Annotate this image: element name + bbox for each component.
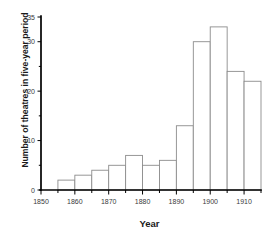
bar	[58, 180, 75, 190]
y-tick-label: 0	[31, 187, 35, 194]
y-tick-label: 20	[27, 88, 35, 95]
bar	[109, 165, 126, 190]
bar	[210, 27, 227, 190]
y-tick-label: 35	[27, 14, 35, 21]
bar	[92, 170, 109, 190]
bar	[176, 126, 193, 190]
x-tick-label: 1890	[169, 198, 185, 205]
x-tick-label: 1880	[135, 198, 151, 205]
x-tick-label: 1850	[33, 198, 49, 205]
plot-area: 0102030351850186018701880189019001910	[0, 0, 269, 240]
bar	[159, 160, 176, 190]
bar	[143, 165, 160, 190]
chart-figure: Number of theatres in five-year period 0…	[0, 0, 269, 240]
bar	[227, 71, 244, 190]
x-tick-label: 1860	[67, 198, 83, 205]
y-tick-label: 30	[27, 38, 35, 45]
bar	[75, 175, 92, 190]
y-tick-label: 10	[27, 137, 35, 144]
bar	[193, 42, 210, 190]
x-tick-label: 1870	[101, 198, 117, 205]
x-axis-label: Year	[30, 218, 269, 229]
x-tick-label: 1900	[202, 198, 218, 205]
bar-series	[58, 27, 261, 190]
bar	[244, 81, 261, 190]
x-tick-label: 1910	[236, 198, 252, 205]
bar	[126, 155, 143, 190]
